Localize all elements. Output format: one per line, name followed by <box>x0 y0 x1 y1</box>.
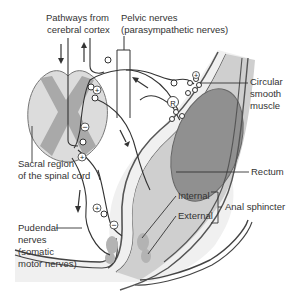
label-pelvic-line2: (parasympathetic nerves) <box>121 24 228 36</box>
label-sacral-line1: Sacral region <box>18 158 74 170</box>
label-rectum: Rectum <box>251 166 284 178</box>
svg-text:+: + <box>80 153 85 162</box>
svg-text:R: R <box>170 99 176 108</box>
label-sacral-line2: of the spinal cord <box>18 170 90 182</box>
pelvic-nerve-bracket <box>117 36 130 118</box>
label-pelvic-line1: Pelvic nerves <box>121 12 178 24</box>
label-pathways-line2: cerebral cortex <box>47 24 110 36</box>
label-pudendal-line4: motor nerves) <box>18 258 77 270</box>
receptor-icon: R <box>168 97 179 108</box>
cortex-pathway-line-2 <box>90 38 104 73</box>
label-external: External <box>178 210 213 222</box>
arrow-afferent-icon <box>132 77 148 88</box>
arrow-pudendal-icon <box>75 190 81 213</box>
svg-text:−: − <box>82 122 87 132</box>
label-internal: Internal <box>178 190 210 202</box>
label-pudendal-line2: nerves <box>18 234 47 246</box>
label-anal-sphincter: Anal sphincter <box>225 201 285 213</box>
svg-text:+: + <box>95 86 100 95</box>
label-circular-line1: Circular <box>250 76 283 88</box>
arrow-down-icon <box>58 44 64 64</box>
arrow-efferent-icon <box>120 130 130 147</box>
svg-text:+: + <box>95 204 100 213</box>
label-pudendal-line3: (somatic <box>18 246 54 258</box>
label-pathways-line1: Pathways from <box>46 12 109 24</box>
label-pudendal-line1: Pudendal <box>18 222 58 234</box>
label-circular-line2: smooth <box>250 88 281 100</box>
svg-text:−: − <box>111 220 116 230</box>
arrow-up-icon <box>81 42 87 62</box>
svg-text:+: + <box>194 72 198 79</box>
label-circular-line3: muscle <box>250 100 280 112</box>
